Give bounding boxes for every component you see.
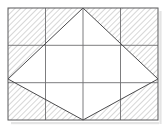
figure-root: Rectangle with inscribed rhombus and hat… [0, 0, 166, 136]
geometry-figure: Rectangle with inscribed rhombus and hat… [0, 0, 166, 136]
